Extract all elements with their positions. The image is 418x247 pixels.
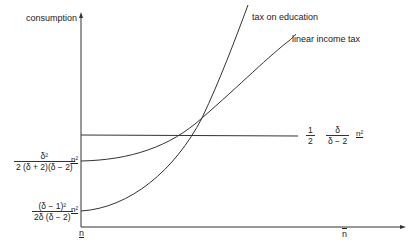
y-axis-arrow-icon [79, 12, 83, 18]
linear-income-tax-curve [81, 40, 290, 161]
upper-intercept-fraction: δ²2 (δ + 2)(δ − 2) [14, 151, 75, 172]
h-n-label: n² [356, 129, 363, 138]
half-fraction: 12 [306, 125, 315, 146]
x-min-label: n [79, 228, 84, 238]
series-label-tax-on-education: tax on education [252, 12, 318, 22]
tax-on-education-curve [81, 5, 248, 211]
upper-n-label: n² [71, 155, 78, 164]
lower-n-label: n² [71, 205, 78, 214]
x-axis-arrow-icon [400, 225, 406, 229]
x-max-label: n [342, 229, 347, 239]
y-axis-label: consumption [26, 13, 77, 23]
lower-intercept-fraction: (δ − 1)²2δ (δ − 2) [32, 201, 73, 222]
series-label-linear-income-tax: linear income tax [292, 34, 360, 44]
delta-fraction: δδ − 2 [326, 125, 349, 146]
constant-line [81, 135, 298, 136]
